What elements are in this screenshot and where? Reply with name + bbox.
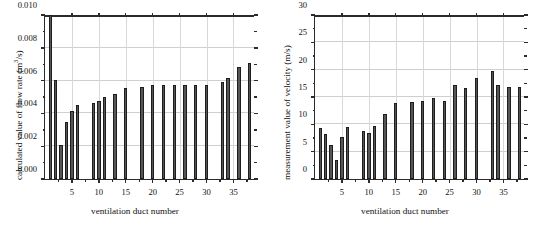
y-axis-minor-tick-right xyxy=(254,64,257,65)
x-axis-minor-tick xyxy=(58,179,59,182)
y-axis-tick xyxy=(41,178,45,179)
y-axis-tick-right xyxy=(254,47,258,48)
x-axis-minor-tick-top xyxy=(462,15,463,18)
bar xyxy=(183,85,186,179)
x-axis-minor-tick-top xyxy=(246,15,247,18)
y-axis-minor-tick-right xyxy=(524,110,527,111)
x-axis-minor-tick-top xyxy=(85,15,86,18)
y-axis-minor-tick-right xyxy=(524,137,527,138)
x-axis-tick-top xyxy=(395,13,396,17)
y-axis-minor-tick xyxy=(313,28,316,29)
x-axis-tick-label: 25 xyxy=(445,187,454,197)
x-axis-minor-tick-top xyxy=(489,15,490,18)
gridline-vertical xyxy=(503,17,504,179)
bar xyxy=(103,97,106,179)
x-axis-minor-tick-top xyxy=(139,15,140,18)
bar xyxy=(97,101,100,179)
bar xyxy=(346,127,349,179)
y-axis-tick-right xyxy=(254,146,258,147)
x-axis-minor-tick xyxy=(516,179,517,182)
x-axis-minor-tick-top xyxy=(516,15,517,18)
x-axis-tick xyxy=(206,179,207,183)
bar xyxy=(362,131,365,179)
y-axis-tick xyxy=(41,113,45,114)
x-axis-tick-top xyxy=(422,13,423,17)
y-axis-tick xyxy=(41,80,45,81)
y-axis-tick-right xyxy=(254,80,258,81)
x-axis-minor-tick xyxy=(219,179,220,182)
x-axis-minor-tick xyxy=(85,179,86,182)
x-axis-tick xyxy=(125,179,126,183)
bar xyxy=(205,85,208,179)
bar xyxy=(162,85,165,179)
gridline-vertical xyxy=(450,17,451,179)
y-axis-tick-right xyxy=(254,113,258,114)
y-axis-tick-right xyxy=(524,42,528,43)
bar xyxy=(151,85,154,179)
y-axis-minor-tick-right xyxy=(254,129,257,130)
y-axis-tick-right xyxy=(524,14,528,15)
x-axis-minor-tick-top xyxy=(435,15,436,18)
bar xyxy=(394,103,397,179)
x-axis-minor-tick xyxy=(435,179,436,182)
plot-top-border xyxy=(45,15,254,17)
y-axis-minor-tick xyxy=(43,162,46,163)
chart-panel-flow-rate: 0.0000.0020.0040.0060.0080.0105101520253… xyxy=(0,0,270,237)
y-axis-tick-right xyxy=(524,69,528,70)
x-axis-tick xyxy=(503,179,504,183)
bar xyxy=(464,88,467,179)
x-axis-tick-label: 35 xyxy=(229,187,238,197)
x-axis-minor-tick-top xyxy=(219,15,220,18)
x-axis-tick-label: 10 xyxy=(365,187,374,197)
x-axis-tick-label: 20 xyxy=(148,187,157,197)
x-axis-tick xyxy=(179,179,180,183)
y-axis-title-units: /s) xyxy=(14,50,24,59)
y-axis-title-flow-rate: calculated value of flow rate (m3/s) xyxy=(12,50,24,180)
bar xyxy=(410,102,413,179)
x-axis-tick-top xyxy=(341,13,342,17)
x-axis-tick xyxy=(422,179,423,183)
x-axis-tick xyxy=(98,179,99,183)
x-axis-tick xyxy=(233,179,234,183)
x-axis-minor-tick-top xyxy=(409,15,410,18)
y-axis-title-exponent: 3 xyxy=(12,60,19,63)
bar xyxy=(319,128,322,179)
x-axis-tick-top xyxy=(233,13,234,17)
bar xyxy=(221,82,224,179)
x-axis-tick-label: 15 xyxy=(121,187,130,197)
x-axis-tick-label: 5 xyxy=(340,187,344,197)
x-axis-tick-top xyxy=(449,13,450,17)
x-axis-tick-top xyxy=(152,13,153,17)
x-axis-title-flow-rate: ventilation duct number xyxy=(0,206,270,216)
x-axis-minor-tick-top xyxy=(165,15,166,18)
x-axis-tick-label: 35 xyxy=(499,187,508,197)
x-axis-minor-tick-top xyxy=(192,15,193,18)
bar xyxy=(76,105,79,179)
y-axis-tick-right xyxy=(524,124,528,125)
bar xyxy=(453,85,456,179)
y-axis-tick-label: 30 xyxy=(267,0,307,10)
chart-panel-velocity: 0510152025305101520253035 measurement va… xyxy=(270,0,540,237)
x-axis-minor-tick xyxy=(409,179,410,182)
x-axis-minor-tick-top xyxy=(328,15,329,18)
x-axis-tick-label: 20 xyxy=(418,187,427,197)
x-axis-title-velocity: ventilation duct number xyxy=(270,206,540,216)
y-axis-tick xyxy=(41,146,45,147)
y-axis-tick-label: 0.010 xyxy=(0,0,37,10)
plot-top-border xyxy=(315,15,524,17)
bar xyxy=(173,85,176,179)
bar xyxy=(194,85,197,179)
bar xyxy=(324,134,327,179)
y-axis-tick xyxy=(311,151,315,152)
gridline-horizontal xyxy=(315,69,524,70)
x-axis-tick-top xyxy=(179,13,180,17)
y-axis-tick-right xyxy=(254,14,258,15)
x-axis-tick xyxy=(368,179,369,183)
y-axis-minor-tick xyxy=(313,137,316,138)
gridline-horizontal xyxy=(315,41,524,42)
x-axis-minor-tick-top xyxy=(355,15,356,18)
x-axis-minor-tick xyxy=(382,179,383,182)
y-axis-tick-right xyxy=(524,96,528,97)
y-axis-minor-tick-right xyxy=(524,83,527,84)
y-axis-tick xyxy=(311,42,315,43)
